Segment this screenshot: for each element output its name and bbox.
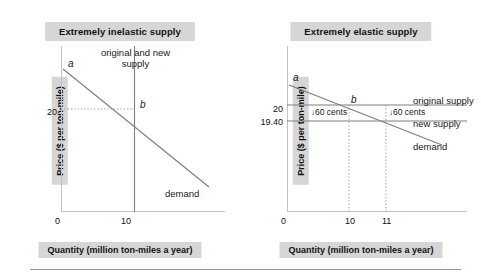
demand-label-left: demand [165, 189, 199, 200]
point-label-b-left: b [140, 99, 146, 110]
plot-svg-left [61, 46, 225, 212]
annotation-60-cents-right-text: 60 cents [393, 107, 425, 117]
original-supply-label-right: original supply [413, 96, 474, 107]
x-tick-left-0: 0 [55, 216, 60, 226]
panel-elastic-supply: Extremely elastic supply Price ($ per to… [241, 0, 481, 262]
annotation-60-cents-left-text: 60 cents [315, 107, 347, 117]
plot-area-right: a b ↓60 cents ↓60 cents original supply … [287, 46, 467, 212]
annotation-60-cents-right: ↓60 cents [389, 107, 425, 117]
figure: Extremely inelastic supply Price ($ per … [0, 0, 481, 278]
new-supply-label-right: new supply [413, 119, 461, 130]
x-tick-right-10: 10 [345, 216, 355, 226]
supply-label-left: original and new supply [88, 48, 183, 69]
panel-inelastic-supply: Extremely inelastic supply Price ($ per … [0, 0, 240, 262]
plot-area-left: a b original and new supply demand [61, 46, 225, 212]
point-label-b-right: b [351, 94, 357, 105]
point-label-a-left: a [68, 58, 74, 69]
demand-label-right: demand [413, 142, 447, 153]
annotation-60-cents-left: ↓60 cents [311, 107, 347, 117]
x-tick-right-0: 0 [281, 216, 286, 226]
point-label-a-right: a [293, 72, 299, 83]
x-axis-label-right: Quantity (million ton-miles a year) [279, 242, 442, 258]
panel-title-inelastic: Extremely inelastic supply [45, 22, 195, 41]
x-axis-label-left: Quantity (million ton-miles a year) [38, 242, 201, 258]
y-tick-right-20: 20 [249, 104, 283, 114]
x-tick-left-10: 10 [121, 216, 131, 226]
footer-rule [30, 269, 461, 270]
y-tick-left-20: 20 [37, 107, 57, 117]
y-tick-right-19-40: 19.40 [243, 117, 283, 127]
x-tick-right-11: 11 [382, 216, 391, 226]
panel-title-elastic: Extremely elastic supply [290, 22, 431, 41]
demand-line-left [63, 69, 209, 187]
